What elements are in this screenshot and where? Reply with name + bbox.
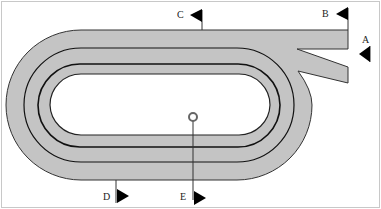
center-ring-icon xyxy=(189,113,197,121)
infield xyxy=(50,74,270,135)
marker-a-label: A xyxy=(362,34,370,45)
marker-d-label: D xyxy=(103,191,110,202)
marker-e-label: E xyxy=(180,191,186,202)
marker-c-label: C xyxy=(177,9,184,20)
racetrack-diagram: C B A D E xyxy=(0,0,381,209)
marker-b-label: B xyxy=(322,8,329,19)
